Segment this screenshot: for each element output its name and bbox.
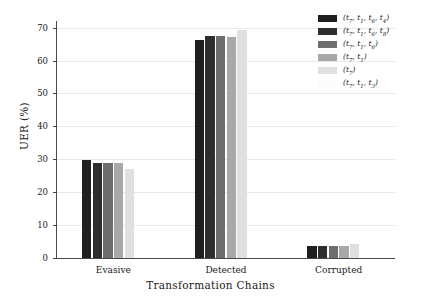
legend-item[interactable]: (t7, t1, t6, t4) [318,12,418,25]
bar [329,246,339,258]
chart-figure: 010203040506070 UER (%) EvasiveDetectedC… [0,0,421,299]
x-tick-label: Evasive [96,265,131,275]
legend-swatch [318,67,337,74]
legend-item[interactable]: (t7, t1, t3) [318,77,418,90]
x-axis-title: Transformation Chains [0,279,421,291]
chart-legend: (t7, t1, t6, t4)(t7, t1, t6, t8)(t7, t1,… [318,12,418,90]
y-axis-title: UER (%) [18,71,30,181]
x-axis-line [57,258,395,259]
bar [307,246,317,258]
y-tick-label: 0 [0,254,48,263]
legend-label: (t7) [343,66,355,76]
y-tick-label: 10 [0,221,48,230]
legend-item[interactable]: (t7) [318,64,418,77]
legend-label: (t7, t1, t6, t8) [343,27,389,37]
x-tick-label: Detected [205,265,246,275]
y-tick-label: 70 [0,23,48,32]
bar [318,246,328,258]
y-tick-label: 20 [0,188,48,197]
legend-swatch [318,80,337,87]
legend-item[interactable]: (t7, t1, t6) [318,38,418,51]
legend-label: (t7, t1) [343,53,367,63]
legend-label: (t7, t1, t6) [343,40,378,50]
legend-item[interactable]: (t7, t1) [318,51,418,64]
legend-item[interactable]: (t7, t1, t6, t8) [318,25,418,38]
x-tick-label: Corrupted [315,265,362,275]
legend-label: (t7, t1, t3) [343,79,378,89]
legend-swatch [318,15,337,22]
legend-swatch [318,41,337,48]
legend-swatch [318,54,337,61]
bar [339,246,349,258]
bar [350,244,360,258]
legend-swatch [318,28,337,35]
y-tick-label: 60 [0,56,48,65]
legend-label: (t7, t1, t6, t4) [343,14,389,24]
